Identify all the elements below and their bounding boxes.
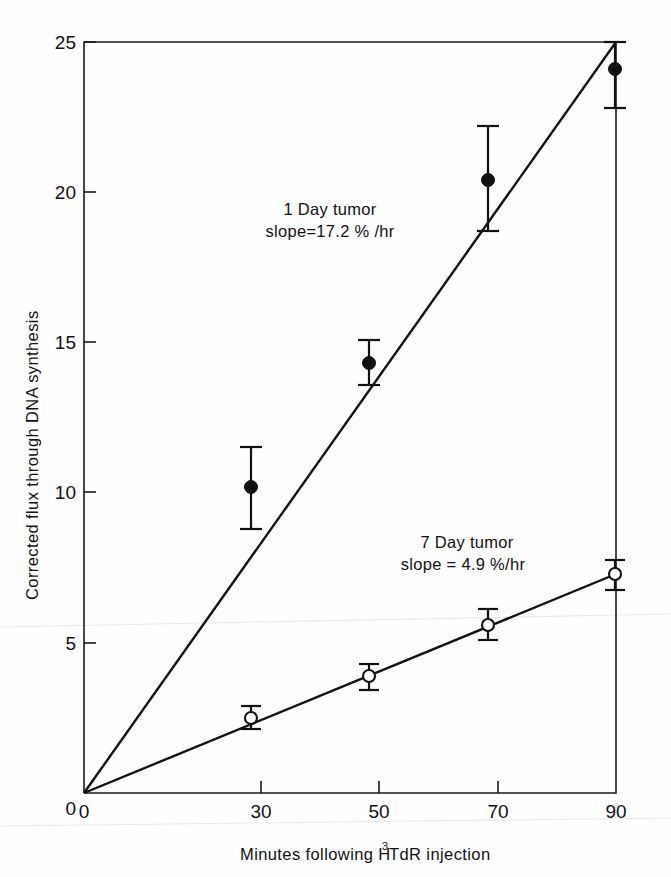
data-point-group	[241, 706, 261, 729]
annotation-7-day-tumor-name: 7 Day tumor	[420, 533, 513, 551]
x-axis-title-superscript: 3	[382, 840, 389, 852]
data-point-open	[482, 619, 494, 631]
x-axis-title-before: Minutes following H	[240, 845, 391, 863]
y-tick-label-25: 25	[55, 32, 76, 53]
x-axis-title: Minutes following H 3 TdR injection	[240, 840, 491, 863]
data-point-group	[604, 42, 626, 108]
data-point-filled	[609, 63, 622, 76]
scan-artifact-line	[0, 614, 671, 627]
x-tick-label-30: 30	[250, 801, 271, 822]
y-tick-label-15: 15	[55, 332, 76, 353]
x-tick-label-90: 90	[605, 801, 626, 822]
y-tick-label-20: 20	[55, 182, 76, 203]
y-tick-label-0: 0	[65, 798, 76, 819]
series-7-day-tumor: 7 Day tumor slope = 4.9 %/hr	[84, 533, 625, 793]
annotation-1-day-tumor-slope: slope=17.2 % /hr	[265, 222, 394, 240]
data-point-open	[363, 670, 375, 682]
y-tick-label-10: 10	[55, 482, 76, 503]
data-point-open	[245, 712, 257, 724]
x-tick-label-0: 0	[79, 801, 90, 822]
data-point-filled	[363, 357, 376, 370]
x-axis-title-after: TdR injection	[389, 845, 491, 863]
chart-canvas: 25 20 15 10 5 0 0 30 50 70 90 Minutes fo…	[0, 0, 671, 877]
y-axis-ticks	[84, 42, 96, 643]
y-tick-label-5: 5	[65, 633, 76, 654]
data-point-group	[478, 609, 498, 640]
scan-artifact-line	[0, 818, 671, 826]
figure-container: 25 20 15 10 5 0 0 30 50 70 90 Minutes fo…	[0, 0, 671, 877]
trend-line-7-day	[84, 574, 616, 793]
annotation-7-day-tumor-slope: slope = 4.9 %/hr	[401, 555, 526, 573]
annotation-1-day-tumor-name: 1 Day tumor	[283, 200, 376, 218]
y-axis-title: Corrected flux through DNA synthesis	[23, 310, 41, 600]
data-point-group	[240, 447, 262, 529]
x-tick-label-50: 50	[368, 801, 389, 822]
data-point-group	[477, 126, 499, 231]
data-point-group	[359, 664, 379, 690]
data-point-open	[609, 568, 621, 580]
data-point-filled	[482, 174, 495, 187]
trend-line-1-day	[84, 42, 616, 793]
x-axis-ticks	[261, 781, 498, 793]
x-tick-label-70: 70	[487, 801, 508, 822]
data-point-group	[605, 560, 625, 590]
data-point-filled	[245, 481, 258, 494]
